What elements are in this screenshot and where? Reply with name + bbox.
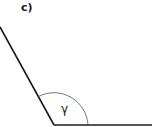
left-ray (0, 27, 54, 125)
angle-gamma-label: γ (61, 102, 68, 116)
part-label: c) (21, 1, 33, 14)
angle-diagram (0, 0, 152, 127)
